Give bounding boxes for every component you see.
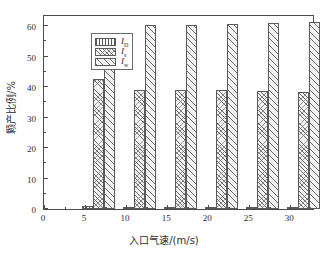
x-tick [167, 205, 168, 209]
x-tick-label: 10 [110, 213, 140, 223]
y-tick [44, 25, 48, 26]
y-tick [44, 208, 48, 209]
chart-figure: 颗产比例/% 0102030405060 ID Is Iw 0510152025… [0, 0, 328, 258]
y-tick [44, 147, 48, 148]
x-tick-label: 25 [233, 213, 263, 223]
bar-I_s-25 [257, 91, 268, 209]
y-tick-label: 10 [0, 175, 36, 185]
x-tick-label: 30 [274, 213, 304, 223]
bar-I_w-25 [268, 23, 279, 209]
y-tick [44, 117, 48, 118]
y-tick-minor [44, 101, 46, 102]
legend-swatch-vertical-lines-icon [95, 38, 116, 46]
y-tick-label: 50 [0, 53, 36, 63]
x-tick-minor [65, 207, 66, 209]
x-tick [85, 205, 86, 209]
bar-I_s-30 [298, 92, 309, 209]
bar-I_D-30 [287, 207, 298, 209]
y-tick-label: 30 [0, 114, 36, 124]
x-tick-minor [229, 207, 230, 209]
x-axis-title: 入口气速/(m/s) [0, 232, 328, 247]
y-tick-label: 60 [0, 22, 36, 32]
bar-I_D-20 [205, 207, 216, 209]
x-tick-minor [270, 207, 271, 209]
bar-I_s-10 [134, 90, 145, 209]
legend-swatch-diagonal-hatch-icon [95, 58, 116, 66]
x-tick-minor [147, 207, 148, 209]
y-tick-label: 20 [0, 144, 36, 154]
bar-I_D-15 [164, 207, 175, 209]
bar-I_D-10 [123, 207, 134, 209]
x-tick [290, 205, 291, 209]
x-tick-label: 15 [151, 213, 181, 223]
x-tick-label: 0 [28, 213, 58, 223]
y-tick-minor [44, 71, 46, 72]
y-tick [44, 86, 48, 87]
legend: ID Is Iw [91, 33, 133, 70]
x-tick-label: 5 [69, 213, 99, 223]
legend-item: Iw [95, 57, 128, 66]
bar-I_w-30 [309, 22, 320, 209]
bar-I_s-20 [216, 90, 227, 209]
bar-I_w-20 [227, 24, 238, 209]
legend-label: Iw [121, 56, 128, 68]
y-tick-minor [44, 132, 46, 133]
x-tick [126, 205, 127, 209]
bar-I_D-25 [246, 207, 257, 209]
bar-I_s-5 [93, 79, 104, 209]
y-tick-minor [44, 40, 46, 41]
bar-I_s-15 [175, 90, 186, 209]
x-tick [249, 205, 250, 209]
y-tick [44, 178, 48, 179]
y-tick [44, 56, 48, 57]
plot-area: ID Is Iw [43, 15, 314, 210]
y-tick-label: 40 [0, 83, 36, 93]
x-tick-minor [106, 207, 107, 209]
bar-I_w-15 [186, 25, 197, 209]
bar-I_w-10 [145, 25, 156, 209]
x-tick-label: 20 [192, 213, 222, 223]
bar-layer [44, 16, 313, 209]
y-tick-minor [44, 193, 46, 194]
x-tick-minor [188, 207, 189, 209]
x-tick [208, 205, 209, 209]
bar-I_D-5 [82, 206, 93, 209]
legend-swatch-fine-hatch-icon [95, 48, 116, 56]
y-tick-minor [44, 162, 46, 163]
